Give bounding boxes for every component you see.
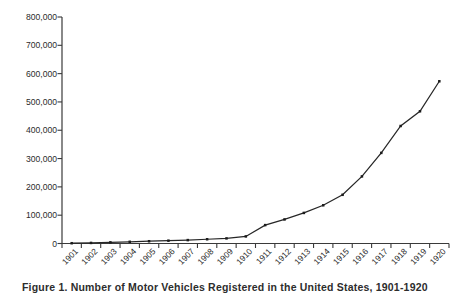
y-axis-tick-marks bbox=[58, 17, 63, 244]
y-tick-label: 200,000 bbox=[26, 182, 57, 192]
x-tick-label: 1907 bbox=[176, 246, 196, 266]
x-tick-label: 1916 bbox=[350, 246, 370, 266]
data-point-marker bbox=[283, 218, 286, 221]
x-tick-label: 1901 bbox=[60, 246, 80, 266]
x-tick-label: 1905 bbox=[137, 246, 157, 266]
x-tick-label: 1911 bbox=[254, 246, 274, 266]
data-point-marker bbox=[128, 241, 131, 244]
x-tick-label: 1908 bbox=[195, 246, 215, 266]
data-point-marker bbox=[361, 175, 364, 178]
x-tick-label: 1919 bbox=[408, 246, 428, 266]
x-axis-tick-labels: 1901190219031904190519061907190819091910… bbox=[60, 246, 448, 266]
data-point-marker bbox=[264, 224, 267, 227]
data-point-marker bbox=[90, 242, 93, 245]
x-tick-label: 1914 bbox=[311, 246, 331, 266]
y-tick-label: 300,000 bbox=[26, 154, 57, 164]
x-axis-tick-marks bbox=[62, 244, 449, 249]
data-point-marker bbox=[70, 242, 73, 245]
x-tick-label: 1917 bbox=[369, 246, 389, 266]
y-tick-label: 600,000 bbox=[26, 69, 57, 79]
x-tick-label: 1910 bbox=[234, 246, 254, 266]
chart-container: 0100,000200,000300,000400,000500,000600,… bbox=[0, 0, 457, 293]
x-tick-label: 1920 bbox=[427, 246, 447, 266]
data-point-marker bbox=[399, 125, 402, 128]
y-tick-label: 100,000 bbox=[26, 210, 57, 220]
data-point-marker bbox=[148, 240, 151, 243]
data-point-marker bbox=[419, 110, 422, 113]
y-tick-label: 0 bbox=[52, 239, 57, 249]
x-tick-label: 1912 bbox=[273, 246, 293, 266]
data-point-marker bbox=[245, 235, 248, 238]
data-point-marker bbox=[187, 239, 190, 242]
data-point-marker bbox=[167, 239, 170, 242]
series-line-registrations bbox=[72, 81, 440, 243]
data-point-marker bbox=[341, 194, 344, 197]
x-tick-label: 1913 bbox=[292, 246, 312, 266]
x-tick-label: 1906 bbox=[157, 246, 177, 266]
x-tick-label: 1904 bbox=[118, 246, 138, 266]
y-tick-label: 400,000 bbox=[26, 125, 57, 135]
x-tick-label: 1902 bbox=[79, 246, 99, 266]
x-tick-label: 1909 bbox=[215, 246, 235, 266]
x-tick-label: 1903 bbox=[99, 246, 119, 266]
y-tick-label: 500,000 bbox=[26, 97, 57, 107]
data-point-marker bbox=[206, 238, 209, 241]
data-point-marker bbox=[303, 212, 306, 215]
line-chart: 0100,000200,000300,000400,000500,000600,… bbox=[0, 0, 457, 293]
data-point-marker bbox=[438, 80, 441, 83]
y-tick-label: 800,000 bbox=[26, 12, 57, 22]
x-tick-label: 1915 bbox=[331, 246, 351, 266]
data-point-marker bbox=[380, 152, 383, 155]
data-point-marker bbox=[322, 204, 325, 207]
figure-caption: Figure 1. Number of Motor Vehicles Regis… bbox=[22, 281, 452, 293]
y-tick-label: 700,000 bbox=[26, 40, 57, 50]
data-point-marker bbox=[225, 237, 228, 240]
data-point-marker bbox=[109, 241, 112, 244]
y-axis-tick-labels: 0100,000200,000300,000400,000500,000600,… bbox=[26, 12, 57, 249]
x-tick-label: 1918 bbox=[389, 246, 409, 266]
series-markers bbox=[70, 80, 440, 244]
